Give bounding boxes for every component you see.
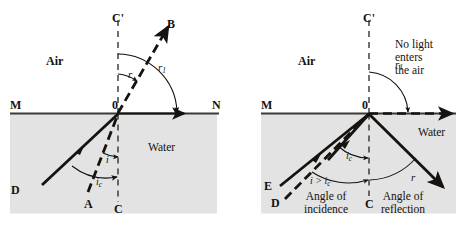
right-panel-total-internal-reflection: M 0 C' C Air Water No light enters the a… bbox=[228, 0, 456, 227]
label-angle-r1: r1 bbox=[158, 62, 166, 74]
label-ray-a: A bbox=[84, 198, 93, 210]
label-medium-water: Water bbox=[418, 127, 445, 139]
label-origin-o: 0 bbox=[362, 99, 368, 111]
label-angle-r: r bbox=[411, 172, 415, 183]
left-panel-refraction-at-critical-angle: M 0 N C' C Air Water B D A r r1 i ic bbox=[0, 0, 228, 227]
label-angle-r1: r1 bbox=[395, 59, 403, 71]
water-region bbox=[10, 114, 217, 214]
caption-angle-of-reflection: Angle of reflection bbox=[381, 190, 425, 216]
label-angle-ic: ic bbox=[96, 177, 102, 188]
label-normal-c: C bbox=[114, 203, 123, 215]
label-ray-b: B bbox=[167, 18, 175, 30]
arc-angle-r1 bbox=[369, 72, 408, 112]
label-ray-d: D bbox=[11, 184, 20, 196]
label-origin-o: 0 bbox=[112, 99, 118, 111]
label-normal-c-prime: C' bbox=[363, 12, 375, 24]
label-angle-i: i bbox=[106, 155, 109, 165]
caption-angle-of-incidence: Angle of incidence bbox=[304, 190, 348, 216]
label-angle-ic: ic bbox=[346, 151, 352, 162]
label-normal-c: C bbox=[365, 198, 374, 210]
label-ray-e: E bbox=[264, 180, 272, 192]
label-medium-air: Air bbox=[298, 55, 315, 67]
label-normal-c-prime: C' bbox=[112, 12, 124, 24]
label-m-left: M bbox=[10, 99, 21, 111]
label-medium-water: Water bbox=[148, 142, 175, 154]
arc-angle-r1 bbox=[118, 54, 177, 112]
figure-root: M 0 N C' C Air Water B D A r r1 i ic bbox=[0, 0, 457, 227]
label-ray-d: D bbox=[271, 197, 280, 209]
label-n-right: N bbox=[212, 99, 221, 111]
label-angle-r: r bbox=[128, 69, 132, 80]
label-medium-air: Air bbox=[46, 55, 63, 67]
label-m-left: M bbox=[261, 99, 272, 111]
left-panel-drawing bbox=[0, 0, 228, 227]
label-incidence-condition: i > ic bbox=[310, 176, 331, 187]
